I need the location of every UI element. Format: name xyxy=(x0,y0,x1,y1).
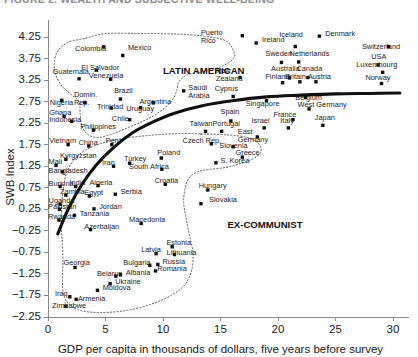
data-point: Nigeria xyxy=(50,98,74,107)
point-label: Norway xyxy=(365,73,390,82)
data-point: China xyxy=(78,138,98,148)
data-point: Moldova xyxy=(96,283,132,292)
chart-canvas: 4.253.753.252.752.251.751.250.750.25−0.2… xyxy=(0,0,418,357)
point-label: West Germany xyxy=(298,100,347,109)
point-marker xyxy=(287,126,290,129)
y-tick-label: 0.25 xyxy=(19,202,41,214)
point-label: Croatia xyxy=(154,176,179,185)
data-point: Cyprus xyxy=(215,84,239,98)
data-point: Estonia xyxy=(166,238,192,248)
point-label: Algeria xyxy=(89,178,113,187)
data-point: Macedonia xyxy=(129,215,166,225)
point-label: Hungary xyxy=(199,181,227,190)
point-label: Estonia xyxy=(166,238,192,247)
data-point: Norway xyxy=(365,73,390,85)
data-point: Pakistan xyxy=(48,202,76,211)
y-tick-label: 4.25 xyxy=(19,30,41,42)
swb-gdp-scatter-figure: FIGURE 2. WEALTH AND SUBJECTIVE WELL-BEI… xyxy=(0,0,418,357)
point-label: Zimbabwe xyxy=(52,301,86,310)
data-point: Colombia xyxy=(75,44,107,53)
point-label: Tanzania xyxy=(80,209,110,218)
group-annotation: EX-COMMUNIST xyxy=(227,219,302,230)
data-point: Vietnam xyxy=(49,136,76,146)
data-point: Rwanda xyxy=(48,212,76,222)
point-label: Romania xyxy=(157,264,187,273)
y-tick-label: 1.25 xyxy=(19,159,41,171)
data-point: Switzerland xyxy=(362,42,400,51)
point-label: Spain xyxy=(221,107,240,116)
point-marker xyxy=(68,295,71,298)
data-point: Uruguay xyxy=(126,104,154,113)
x-tick-label: 25 xyxy=(329,323,342,335)
point-label: Portugal xyxy=(212,119,240,128)
data-point: Peru xyxy=(106,136,122,146)
data-point: Iraq xyxy=(55,289,72,299)
point-label: Denmark xyxy=(325,29,355,38)
point-label: Egypt xyxy=(84,188,103,197)
point-label: Azerbaijan xyxy=(84,222,119,231)
data-point: SaudiArabia xyxy=(182,83,211,100)
point-label: Taiwan xyxy=(189,119,212,128)
point-label: Cyprus xyxy=(215,84,239,93)
point-label: Macedonia xyxy=(129,215,166,224)
point-label: Netherlands xyxy=(290,49,330,58)
point-marker xyxy=(241,34,244,37)
point-label: Switzerland xyxy=(362,42,400,51)
point-marker xyxy=(318,34,321,37)
point-label: Japan xyxy=(315,113,335,122)
point-marker xyxy=(220,130,223,133)
data-point: West Germany xyxy=(298,100,347,110)
x-tick-label: 20 xyxy=(272,323,285,335)
data-point: Georgia xyxy=(64,258,91,269)
data-point: Zimbabwe xyxy=(52,301,86,310)
y-tick-label: −2.25 xyxy=(12,310,41,322)
data-point: Bangladesh xyxy=(49,166,88,175)
data-point: Israel xyxy=(252,116,270,129)
point-marker xyxy=(96,289,99,292)
x-tick-label: 5 xyxy=(102,323,108,335)
point-label: Bangladesh xyxy=(49,166,88,175)
data-point: Lithuania xyxy=(166,248,197,257)
point-marker xyxy=(263,126,266,129)
point-label: Albania xyxy=(126,268,152,277)
point-label: SaudiArabia xyxy=(188,83,210,100)
point-marker xyxy=(114,193,117,196)
point-marker xyxy=(380,82,383,85)
data-point: Croatia xyxy=(154,176,179,186)
point-label: Rwanda xyxy=(48,212,76,221)
y-tick-label: −0.25 xyxy=(12,224,41,236)
data-point: Iran xyxy=(102,158,115,168)
data-point: Albania xyxy=(119,268,151,277)
point-label: Latvia xyxy=(141,245,162,254)
point-label: Bulgaria xyxy=(123,258,151,267)
point-label: Vietnam xyxy=(49,136,76,145)
data-point: Serbia xyxy=(114,187,143,196)
data-point: Poland xyxy=(157,148,180,159)
data-point: Tanzania xyxy=(73,209,110,218)
data-point: Philippines xyxy=(80,122,116,132)
point-label: Uruguay xyxy=(126,104,154,113)
point-marker xyxy=(281,81,284,84)
data-point: Venezuela xyxy=(89,71,124,81)
point-label: China xyxy=(78,138,98,147)
data-point: Kyrgyzstan xyxy=(60,151,97,161)
point-label: Sweden xyxy=(265,49,292,58)
data-point: Singapore xyxy=(246,99,280,108)
data-point: Finland xyxy=(265,72,289,84)
x-axis-title: GDP per capita in thousands of dollars, … xyxy=(58,343,383,355)
point-label: Philippines xyxy=(80,122,116,131)
y-tick-label: 2.75 xyxy=(19,95,41,107)
x-tick-label: 10 xyxy=(157,323,170,335)
point-label: Indonesia xyxy=(49,115,82,124)
point-label: Iran xyxy=(102,158,115,167)
data-point: Latvia xyxy=(141,245,162,256)
y-tick-label: −1.75 xyxy=(12,288,41,300)
point-label: Mexico xyxy=(128,43,151,52)
data-point: Mexico xyxy=(121,43,151,57)
point-label: Zambia xyxy=(60,187,86,196)
y-tick-label: 2.25 xyxy=(19,116,41,128)
point-label: S. Korea xyxy=(221,156,251,165)
point-marker xyxy=(254,41,257,44)
y-tick-label: 3.75 xyxy=(19,52,41,64)
point-label: Finland xyxy=(265,72,289,81)
